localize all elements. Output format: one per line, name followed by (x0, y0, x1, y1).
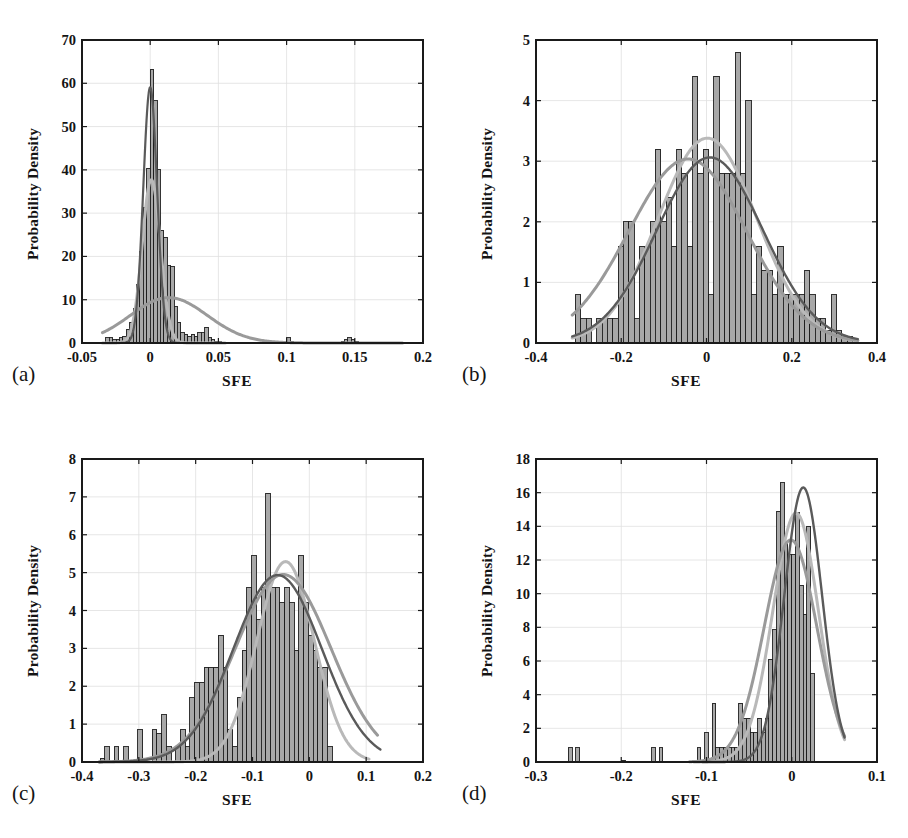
plot-area-c (0, 419, 454, 838)
y-tick-label: 70 (62, 32, 77, 49)
x-tick-label: -0.2 (610, 768, 633, 785)
y-axis-label-d: Probability Density (478, 545, 496, 677)
y-tick-label: 50 (62, 118, 77, 135)
figure-four-panel-histograms: Probability Density SFE (a) -0.0500.050.… (0, 0, 908, 838)
y-tick-label: 4 (523, 92, 530, 109)
x-tick-label: -0.3 (127, 768, 150, 785)
x-tick-label: 0.2 (414, 768, 432, 785)
panel-b: Probability Density SFE (b) -0.4-0.200.2… (454, 0, 908, 419)
panel-c: Probability Density SFE (c) -0.4-0.3-0.2… (0, 419, 454, 838)
y-tick-label: 20 (62, 248, 77, 265)
y-tick-label: 2 (69, 678, 76, 695)
y-axis-label-c: Probability Density (24, 545, 42, 677)
y-tick-label: 30 (62, 205, 77, 222)
y-tick-label: 5 (69, 564, 76, 581)
y-tick-label: 0 (69, 335, 76, 352)
panel-a: Probability Density SFE (a) -0.0500.050.… (0, 0, 454, 419)
x-tick-label: -0.4 (71, 768, 94, 785)
y-tick-label: 16 (516, 484, 531, 501)
y-tick-label: 40 (62, 161, 77, 178)
x-axis-label-b: SFE (671, 372, 701, 390)
y-tick-label: 12 (516, 552, 531, 569)
y-tick-label: 2 (523, 213, 530, 230)
y-tick-label: 1 (69, 716, 76, 733)
y-tick-label: 0 (69, 754, 76, 771)
x-axis-label-a: SFE (222, 372, 252, 390)
x-tick-label: -0.4 (525, 349, 548, 366)
x-tick-label: -0.1 (695, 768, 718, 785)
panel-d: Probability Density SFE (d) -0.3-0.2-0.1… (454, 419, 908, 838)
x-tick-label: 0.15 (342, 349, 367, 366)
x-tick-label: 0.2 (783, 349, 801, 366)
x-tick-label: 0 (703, 349, 710, 366)
x-tick-label: 0.2 (414, 349, 432, 366)
panel-letter-c: (c) (12, 781, 35, 806)
y-tick-label: 18 (516, 451, 531, 468)
y-tick-label: 3 (523, 153, 530, 170)
y-tick-label: 10 (62, 291, 77, 308)
x-tick-label: -0.05 (67, 349, 97, 366)
x-axis-label-d: SFE (671, 791, 701, 809)
x-tick-label: 0 (788, 768, 795, 785)
y-tick-label: 10 (516, 585, 531, 602)
y-tick-label: 4 (523, 686, 530, 703)
panel-letter-b: (b) (462, 362, 487, 387)
x-tick-label: 0.4 (868, 349, 886, 366)
y-tick-label: 14 (516, 518, 531, 535)
y-tick-label: 1 (523, 274, 530, 291)
x-tick-label: 0.1 (278, 349, 296, 366)
y-tick-label: 6 (69, 526, 76, 543)
y-tick-label: 0 (523, 754, 530, 771)
x-tick-label: -0.2 (610, 349, 633, 366)
y-tick-label: 8 (69, 451, 76, 468)
y-tick-label: 60 (62, 75, 77, 92)
y-tick-label: 2 (523, 720, 530, 737)
plot-area-b (454, 0, 908, 419)
x-tick-label: 0.05 (206, 349, 231, 366)
y-tick-label: 0 (523, 335, 530, 352)
y-tick-label: 6 (523, 653, 530, 670)
x-tick-label: -0.3 (525, 768, 548, 785)
x-tick-label: -0.1 (241, 768, 264, 785)
x-tick-label: 0 (306, 768, 313, 785)
y-tick-label: 5 (523, 32, 530, 49)
y-tick-label: 8 (523, 619, 530, 636)
y-tick-label: 4 (69, 602, 76, 619)
x-axis-label-c: SFE (222, 791, 252, 809)
panel-letter-d: (d) (462, 781, 487, 806)
panel-letter-a: (a) (12, 362, 35, 387)
y-axis-label-a: Probability Density (24, 128, 42, 260)
y-tick-label: 3 (69, 640, 76, 657)
x-tick-label: 0.1 (357, 768, 375, 785)
y-axis-label-b: Probability Density (478, 128, 496, 260)
x-tick-label: 0 (147, 349, 154, 366)
x-tick-label: 0.1 (868, 768, 886, 785)
y-tick-label: 7 (69, 488, 76, 505)
x-tick-label: -0.2 (184, 768, 207, 785)
